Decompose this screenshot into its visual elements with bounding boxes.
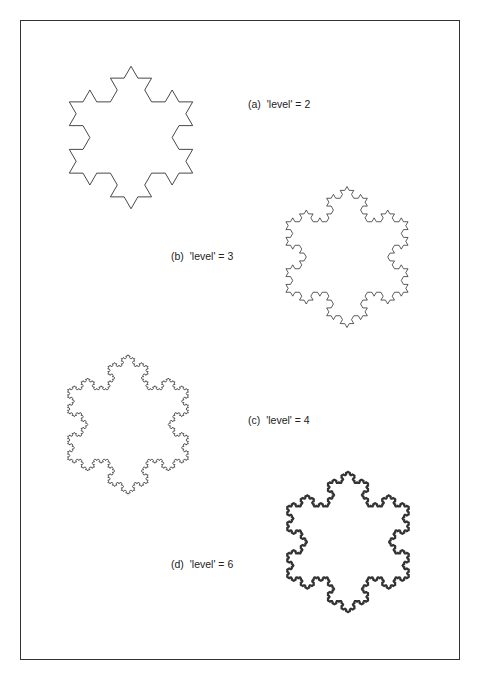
caption-d: (d)'level' = 6 [171, 558, 233, 570]
caption-c: (c)'level' = 4 [248, 414, 310, 426]
koch-snowflake-level-6 [287, 472, 409, 613]
caption-expression: 'level' = 4 [266, 414, 309, 426]
caption-expression: 'level' = 2 [267, 98, 310, 110]
caption-expression: 'level' = 3 [190, 250, 233, 262]
caption-a: (a)'level' = 2 [248, 98, 310, 110]
caption-b: (b)'level' = 3 [171, 250, 233, 262]
caption-tag: (b) [171, 250, 184, 262]
koch-snowflake-level-3 [286, 187, 408, 328]
koch-snowflake-canvas [0, 0, 482, 679]
caption-tag: (c) [248, 414, 260, 426]
koch-snowflake-level-4 [68, 355, 189, 495]
koch-snowflake-level-2 [69, 66, 192, 209]
caption-expression: 'level' = 6 [190, 558, 233, 570]
caption-tag: (a) [248, 98, 261, 110]
caption-tag: (d) [171, 558, 184, 570]
